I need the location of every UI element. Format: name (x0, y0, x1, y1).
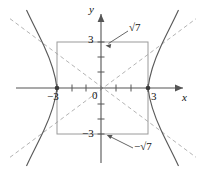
graph-canvas (0, 0, 205, 174)
y-bottom-tick-label: −3 (82, 128, 94, 139)
x-pos-vertex-label: 3 (151, 91, 157, 102)
callout-bottom-label: −√7 (134, 141, 152, 152)
vertex-right-marker (146, 86, 151, 91)
hyperbola-figure: y x 0 −3 3 3 −3 √7 −√7 (0, 0, 205, 174)
callout-bottom-leader (107, 135, 133, 148)
x-neg-vertex-label: −3 (47, 91, 59, 102)
callout-top-label: √7 (129, 22, 141, 33)
y-top-tick-label: 3 (88, 34, 94, 45)
x-axis-label: x (182, 92, 187, 103)
y-axis-label: y (89, 4, 94, 15)
origin-label: 0 (92, 90, 98, 101)
x-axis (16, 85, 183, 92)
callout-top-leader (106, 31, 129, 48)
